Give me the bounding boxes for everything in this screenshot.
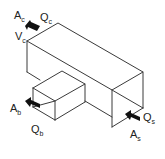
label-As: As: [130, 128, 141, 142]
label-Qb: Qb: [31, 123, 44, 137]
label-Ab: Ab: [10, 102, 21, 116]
combined-flow-arrow-icon: [25, 20, 40, 31]
label-Qc: Qc: [40, 11, 53, 25]
main-duct: [27, 23, 143, 127]
label-Qs: Qs: [143, 111, 156, 125]
duct-tee-diagram: Ac Qc Vc Ab Qb Qs As: [0, 0, 165, 159]
label-Vc: Vc: [15, 30, 26, 44]
branch-duct: [33, 71, 85, 120]
label-Ac: Ac: [14, 9, 25, 23]
